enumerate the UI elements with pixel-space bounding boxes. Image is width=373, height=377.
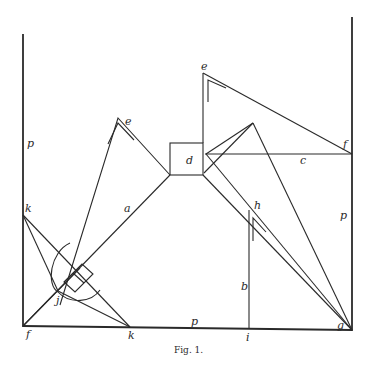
figure-caption: Fig. 1. (174, 345, 203, 355)
label-c: c (300, 154, 306, 167)
k-left-to-j (23, 215, 58, 291)
label-h: h (254, 199, 261, 212)
d-to-g-lower (203, 175, 352, 330)
label-f-bottom: f (25, 328, 32, 341)
label-e-top: e (201, 60, 208, 73)
label-a: a (124, 202, 131, 215)
apex-to-d-bottom (204, 123, 253, 173)
floor-line (23, 326, 352, 330)
label-i: i (246, 331, 250, 344)
label-g: g (337, 319, 344, 332)
apex-to-d-top (206, 123, 253, 154)
label-k-left: k (25, 202, 32, 215)
label-f-top: f (342, 138, 349, 151)
rect-j-mid (73, 273, 84, 283)
top-e-right-angle-mark (208, 80, 226, 102)
label-k-bottom: k (128, 329, 135, 342)
label-d: d (186, 154, 193, 167)
label-j: j (53, 294, 60, 307)
label-b: b (241, 280, 248, 293)
label-p-left: p (27, 137, 34, 150)
d-to-g-upper (206, 154, 352, 330)
label-p-bottom: p (191, 315, 198, 328)
label-p-right: p (340, 209, 347, 222)
label-e-left: e (125, 115, 132, 128)
geometry-figure: p p p e e d c f f a b h i g k k j Fig. 1… (0, 0, 373, 377)
left-e-arms (60, 118, 170, 305)
